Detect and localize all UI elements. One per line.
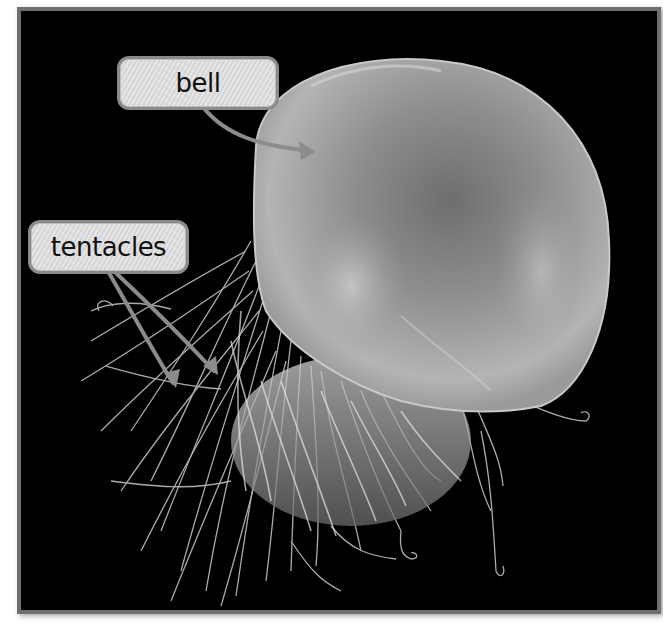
photo-frame: bell tentacles — [17, 7, 661, 614]
bell-label-text: bell — [176, 68, 221, 98]
tentacles-label: tentacles — [28, 220, 189, 274]
tentacles-label-text: tentacles — [51, 232, 166, 262]
bell-graphic — [254, 59, 609, 411]
bell-label: bell — [117, 56, 279, 110]
